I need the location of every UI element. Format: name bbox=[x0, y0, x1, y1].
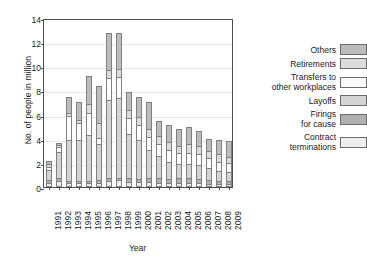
bar-segment bbox=[116, 98, 122, 179]
x-axis-tick-label: 2004 bbox=[183, 211, 193, 230]
x-axis-tick-label: 2006 bbox=[203, 211, 213, 230]
x-axis-tick-label: 2007 bbox=[213, 211, 223, 230]
bar-segment bbox=[116, 33, 122, 70]
x-axis-tick-mark bbox=[189, 187, 190, 190]
bar-segment bbox=[76, 102, 82, 122]
legend-item-label: Retirements bbox=[290, 59, 340, 69]
bar-segment bbox=[216, 140, 222, 156]
bar-stack[interactable] bbox=[156, 121, 162, 187]
x-axis-tick-mark bbox=[159, 187, 160, 190]
legend-item[interactable]: Layoffs bbox=[243, 95, 367, 106]
y-axis-tick-mark bbox=[41, 141, 44, 142]
bar-stack[interactable] bbox=[206, 139, 212, 187]
bar-stack[interactable] bbox=[166, 125, 172, 187]
bar-stack[interactable] bbox=[96, 86, 102, 187]
x-axis-tick-label: 1992 bbox=[63, 211, 73, 230]
bar-segment bbox=[66, 116, 72, 141]
bar-segment bbox=[96, 86, 102, 125]
bar-segment bbox=[126, 92, 132, 111]
bar-stack[interactable] bbox=[66, 97, 72, 187]
x-axis-tick-mark bbox=[229, 187, 230, 190]
x-axis-tick-label: 1996 bbox=[103, 211, 113, 230]
x-axis-tick-label: 2008 bbox=[223, 211, 233, 230]
y-axis-tick-label: 12 bbox=[32, 39, 41, 49]
legend-color-swatch bbox=[340, 95, 367, 106]
bar-stack[interactable] bbox=[126, 92, 132, 187]
legend-item-label: Contract terminations bbox=[290, 132, 340, 152]
bar-stack[interactable] bbox=[46, 161, 52, 187]
legend-item[interactable]: Firings for cause bbox=[243, 109, 367, 129]
bar-segment bbox=[106, 33, 112, 71]
x-axis-tick-label: 1998 bbox=[123, 211, 133, 230]
bar-segment bbox=[76, 140, 82, 182]
legend-item[interactable]: Retirements bbox=[243, 58, 367, 69]
x-axis-tick-label: 2000 bbox=[143, 211, 153, 230]
stacked-bar-chart-figure: No. of people in million 024681012141991… bbox=[0, 0, 367, 267]
y-axis-tick-label: 14 bbox=[32, 15, 41, 25]
bar-segment bbox=[86, 113, 92, 136]
legend-color-swatch bbox=[340, 58, 367, 69]
legend-item[interactable]: Others bbox=[243, 44, 367, 55]
bar-segment bbox=[196, 131, 202, 147]
legend-item[interactable]: Contract terminations bbox=[243, 132, 367, 152]
y-axis-tick-mark bbox=[41, 165, 44, 166]
bar-stack[interactable] bbox=[136, 97, 142, 187]
bar-segment bbox=[96, 123, 102, 139]
bar-segment bbox=[66, 97, 72, 114]
x-axis-tick-mark bbox=[219, 187, 220, 190]
x-axis-tick-mark bbox=[169, 187, 170, 190]
bar-stack[interactable] bbox=[196, 131, 202, 187]
legend-item-label: Firings for cause bbox=[301, 109, 340, 129]
bar-segment bbox=[166, 162, 172, 180]
bar-segment bbox=[176, 129, 182, 147]
bar-segment bbox=[146, 102, 152, 130]
x-axis-tick-mark bbox=[129, 187, 130, 190]
bar-stack[interactable] bbox=[226, 141, 232, 187]
bar-segment bbox=[166, 150, 172, 163]
bar-stack[interactable] bbox=[176, 129, 182, 187]
x-axis-tick-label: 1997 bbox=[113, 211, 123, 230]
x-axis-tick-label: 1993 bbox=[73, 211, 83, 230]
bar-stack[interactable] bbox=[186, 127, 192, 187]
bar-segment bbox=[186, 164, 192, 179]
bar-segment bbox=[146, 137, 152, 151]
bar-stack[interactable] bbox=[116, 33, 122, 187]
bar-segment bbox=[86, 135, 92, 182]
bar-segment bbox=[86, 76, 92, 105]
bar-stack[interactable] bbox=[216, 140, 222, 187]
legend-color-swatch bbox=[340, 44, 367, 55]
bar-segment bbox=[136, 125, 142, 141]
legend-item-label: Others bbox=[310, 45, 340, 55]
bar-segment bbox=[106, 100, 112, 179]
y-axis-tick-mark bbox=[41, 44, 44, 45]
bar-segment bbox=[146, 150, 152, 180]
bar-stack[interactable] bbox=[86, 76, 92, 187]
bar-stack[interactable] bbox=[106, 33, 112, 187]
x-axis-tick-label: 1994 bbox=[83, 211, 93, 230]
x-axis-tick-label: 2003 bbox=[173, 211, 183, 230]
x-axis-tick-mark bbox=[149, 187, 150, 190]
legend: OthersRetirementsTransfers to other work… bbox=[243, 44, 367, 155]
bar-segment bbox=[156, 144, 162, 157]
x-axis-tick-mark bbox=[109, 187, 110, 190]
bar-stack[interactable] bbox=[146, 102, 152, 187]
x-axis-tick-mark bbox=[199, 187, 200, 190]
bar-segment bbox=[186, 127, 192, 145]
x-axis-tick-label: 1995 bbox=[93, 211, 103, 230]
x-axis-tick-label: 1991 bbox=[53, 211, 63, 230]
x-axis-tick-mark bbox=[209, 187, 210, 190]
x-axis-tick-mark bbox=[49, 187, 50, 190]
x-axis-tick-mark bbox=[59, 187, 60, 190]
bar-segment bbox=[156, 121, 162, 137]
bar-segment bbox=[126, 118, 132, 136]
legend-item[interactable]: Transfers to other workplaces bbox=[243, 72, 367, 92]
y-axis-tick-label: 10 bbox=[32, 63, 41, 73]
bar-segment bbox=[156, 156, 162, 180]
bar-stack[interactable] bbox=[56, 143, 62, 187]
legend-item-label: Transfers to other workplaces bbox=[272, 72, 340, 92]
x-axis-tick-mark bbox=[99, 187, 100, 190]
bar-stack[interactable] bbox=[76, 102, 82, 187]
y-axis-tick-mark bbox=[41, 68, 44, 69]
x-axis-tick-label: 2001 bbox=[153, 211, 163, 230]
x-axis-tick-label: 1999 bbox=[133, 211, 143, 230]
